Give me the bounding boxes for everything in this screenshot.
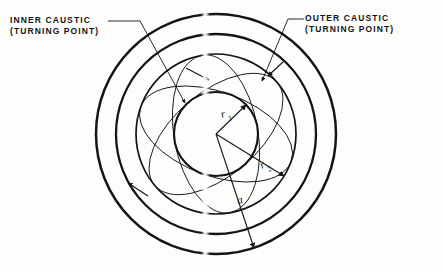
a-symbol: a <box>236 193 245 206</box>
a-dimension-arrow <box>216 134 254 248</box>
inner-caustic-label: INNER CAUSTIC (TURNING POINT) <box>10 15 99 37</box>
caustic-diagram-figure: r 1 r 2 a INNER CAUSTIC (TURNING POINT) … <box>0 0 444 270</box>
orbit-direction-arrows <box>128 62 283 196</box>
inner-caustic-label-line2: (TURNING POINT) <box>10 26 99 37</box>
outer-caustic-label-line2: (TURNING POINT) <box>305 24 394 35</box>
diagram-canvas: r 1 r 2 a <box>0 0 444 270</box>
inner-caustic-label-line1: INNER CAUSTIC <box>10 15 99 26</box>
outer-caustic-label-line1: OUTER CAUSTIC <box>305 13 394 24</box>
r1-symbol: r <box>219 107 227 120</box>
outer-caustic-label: OUTER CAUSTIC (TURNING POINT) <box>305 13 394 35</box>
dimension-symbol-group: r 1 r 2 a <box>219 107 274 206</box>
r2-dimension-arrow <box>216 134 284 176</box>
